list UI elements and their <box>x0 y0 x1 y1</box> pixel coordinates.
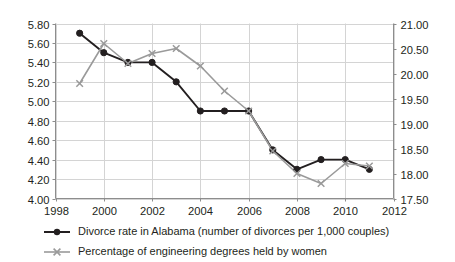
y-axis-left-labels: 4.004.204.404.604.805.005.205.405.605.80 <box>28 19 50 206</box>
data-point-marker-circle <box>318 157 324 163</box>
y-tick-label-left: 4.20 <box>28 174 50 186</box>
y-tick-label-left: 5.20 <box>28 77 50 89</box>
data-point-marker-circle <box>221 108 227 114</box>
x-tick-label: 2002 <box>140 205 165 217</box>
x-tick-label: 2006 <box>237 205 262 217</box>
y-tick-label-left: 5.40 <box>28 57 50 69</box>
x-tick-label: 2008 <box>285 205 310 217</box>
y-tick-label-right: 18.00 <box>401 169 429 181</box>
y-tick-label-left: 5.00 <box>28 96 50 108</box>
y-tick-label-right: 20.00 <box>401 69 429 81</box>
y-tick-label-right: 21.00 <box>401 19 429 31</box>
x-tick-label: 2012 <box>382 205 407 217</box>
y-tick-label-left: 4.60 <box>28 135 50 147</box>
y-tick-label-left: 4.80 <box>28 116 50 128</box>
data-point-marker-circle <box>149 59 155 65</box>
y-axis-right-labels: 17.5018.0018.5019.0019.5020.0020.5021.00 <box>401 19 429 206</box>
x-tick-label: 2010 <box>333 205 358 217</box>
y-tick-label-left: 5.60 <box>28 38 50 50</box>
data-point-marker-circle <box>197 108 203 114</box>
data-point-marker-x <box>221 88 228 95</box>
data-point-marker-circle <box>173 79 179 85</box>
legend-item-2[interactable]: Percentage of engineering degrees held b… <box>44 245 327 257</box>
legend-marker-circle <box>54 229 60 235</box>
y-tick-label-left: 5.80 <box>28 19 50 31</box>
y-tick-label-right: 19.00 <box>401 119 429 131</box>
x-tick-label: 2004 <box>188 205 213 217</box>
x-axis-labels: 19982000200220042006200820102012 <box>44 205 407 217</box>
data-point-marker-x <box>318 180 325 187</box>
data-point-marker-x <box>76 80 83 87</box>
chart-canvas: 4.004.204.404.604.805.005.205.405.605.80… <box>0 0 455 262</box>
data-point-marker-circle <box>77 30 83 36</box>
legend-label: Percentage of engineering degrees held b… <box>78 245 327 257</box>
y-tick-label-left: 4.40 <box>28 155 50 167</box>
chart-legend: Divorce rate in Alabama (number of divor… <box>44 225 389 257</box>
y-tick-label-right: 18.50 <box>401 144 429 156</box>
x-tick-label: 1998 <box>44 205 69 217</box>
y-tick-label-right: 19.50 <box>401 94 429 106</box>
legend-item-1[interactable]: Divorce rate in Alabama (number of divor… <box>44 225 389 237</box>
y-tick-label-right: 20.50 <box>401 44 429 56</box>
series-markers <box>76 30 372 187</box>
x-tick-label: 2000 <box>92 205 117 217</box>
dual-axis-line-chart: 4.004.204.404.604.805.005.205.405.605.80… <box>0 0 455 262</box>
legend-label: Divorce rate in Alabama (number of divor… <box>78 225 389 237</box>
data-point-marker-circle <box>101 50 107 56</box>
